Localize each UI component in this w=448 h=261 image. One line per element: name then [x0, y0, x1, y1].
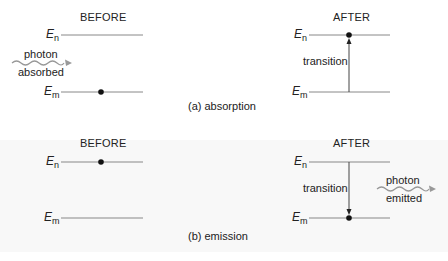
- b-after-electron: [346, 215, 352, 221]
- b-after-header: AFTER: [333, 138, 370, 149]
- a-before-en-label: En: [46, 28, 59, 43]
- b-before-em-label: Em: [44, 211, 60, 226]
- a-after-electron: [346, 32, 352, 38]
- a-transition-label: transition: [303, 56, 348, 67]
- a-before-electron: [98, 89, 104, 95]
- b-after-em-label: Em: [292, 211, 308, 226]
- photon-wave-icon: [377, 187, 429, 191]
- photon-label: photon: [24, 49, 58, 60]
- arrow-down-icon: [347, 209, 352, 215]
- b-after-en-label: En: [294, 155, 307, 170]
- photon-wave-icon: [12, 61, 64, 65]
- a-after-header: AFTER: [333, 12, 370, 23]
- absorption-caption: (a) absorption: [188, 101, 256, 112]
- emission-caption: (b) emission: [188, 231, 248, 242]
- emitted-label: emitted: [386, 193, 422, 204]
- arrow-up-icon: [347, 38, 352, 44]
- absorbed-label: absorbed: [18, 67, 64, 78]
- b-before-header: BEFORE: [80, 138, 126, 149]
- wave-arrow-icon: [429, 186, 436, 193]
- energy-level-diagram: [0, 0, 448, 261]
- a-after-en-label: En: [294, 28, 307, 43]
- b-transition-label: transition: [303, 183, 348, 194]
- a-after-em-label: Em: [292, 85, 308, 100]
- photon-label: photon: [386, 175, 420, 186]
- b-before-en-label: En: [46, 155, 59, 170]
- b-before-electron: [98, 159, 104, 165]
- a-before-em-label: Em: [44, 85, 60, 100]
- a-before-header: BEFORE: [80, 12, 126, 23]
- wave-arrow-icon: [65, 60, 72, 67]
